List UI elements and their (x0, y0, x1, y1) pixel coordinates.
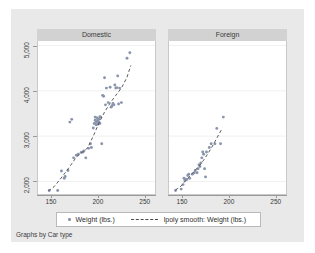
data-point (64, 175, 67, 178)
data-point (200, 156, 203, 159)
data-point (117, 103, 120, 106)
panel-title-domestic: Domestic (37, 29, 156, 41)
x-tick-label: 250 (264, 199, 288, 206)
y-tick-label: 2,000 (24, 177, 31, 193)
data-point (205, 151, 208, 154)
data-point (116, 74, 119, 77)
legend: Weight (lbs.) lpoly smooth: Weight (lbs.… (56, 212, 261, 227)
data-point (222, 116, 225, 119)
x-axis-line-domestic (37, 195, 156, 196)
data-point (90, 146, 93, 149)
data-point (92, 127, 95, 130)
plot-panel-domestic (37, 41, 156, 195)
graph-caption: Graphs by Car type (16, 231, 72, 238)
graph-region: Domestic Foreign 2,0003,0004,0005,000 15… (11, 9, 304, 242)
data-point (196, 171, 199, 174)
y-tick-label: 3,000 (24, 132, 31, 148)
data-point (210, 142, 213, 145)
legend-item-weight: Weight (lbs.) (68, 216, 115, 223)
data-point (215, 127, 218, 130)
data-point (208, 146, 211, 149)
plot-canvas-foreign (169, 41, 287, 195)
smooth-line (176, 128, 223, 190)
data-point (204, 175, 207, 178)
data-point (113, 83, 116, 86)
data-point (187, 173, 190, 176)
data-point (109, 86, 112, 89)
data-point (118, 87, 121, 90)
data-point (128, 51, 131, 54)
data-point (202, 153, 205, 156)
legend-marker-icon (68, 218, 71, 221)
data-point (203, 167, 206, 170)
x-tick-label: 200 (217, 199, 241, 206)
data-point (213, 142, 216, 145)
data-point (103, 76, 106, 79)
data-point (120, 101, 123, 104)
data-point (56, 189, 59, 192)
legend-label-lpoly: lpoly smooth: Weight (lbs.) (164, 216, 246, 223)
data-point (115, 86, 118, 89)
x-axis-line-foreign (168, 195, 287, 196)
data-point (112, 103, 115, 106)
data-point (180, 188, 183, 191)
x-tick-label: 150 (170, 199, 194, 206)
data-point (68, 121, 71, 124)
x-tick-label: 250 (133, 199, 157, 206)
plot-canvas-domestic (38, 41, 156, 195)
y-tick-label: 5,000 (24, 42, 31, 58)
data-point (60, 170, 63, 173)
data-point (102, 95, 105, 98)
dashed-line-icon (131, 219, 158, 220)
data-point (84, 156, 87, 159)
data-point (104, 103, 107, 106)
panel-title-foreign: Foreign (168, 29, 287, 41)
plot-panel-foreign (168, 41, 287, 195)
x-tick-label: 200 (86, 199, 110, 206)
legend-item-lpoly: lpoly smooth: Weight (lbs.) (131, 216, 246, 223)
data-point (70, 118, 73, 121)
data-point (219, 142, 222, 145)
data-point (105, 87, 108, 90)
x-tick-label: 150 (39, 199, 63, 206)
data-point (100, 142, 103, 145)
legend-label-weight: Weight (lbs.) (76, 216, 115, 223)
data-point (126, 57, 129, 60)
y-tick-label: 4,000 (24, 87, 31, 103)
